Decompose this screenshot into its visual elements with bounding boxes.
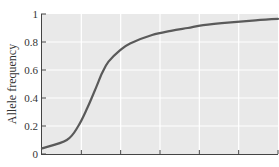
y-axis-label: Allele frequency — [5, 44, 19, 124]
y-tick-label: 0.2 — [24, 120, 38, 132]
allele-frequency-chart: 00.20.40.60.81 Allele frequency — [0, 0, 279, 167]
y-tick-label: 0.4 — [24, 92, 38, 104]
y-tick-label: 0 — [33, 148, 39, 160]
y-tick-label: 0.6 — [24, 64, 38, 76]
y-tick-label: 1 — [33, 8, 39, 20]
y-tick-label: 0.8 — [24, 36, 38, 48]
